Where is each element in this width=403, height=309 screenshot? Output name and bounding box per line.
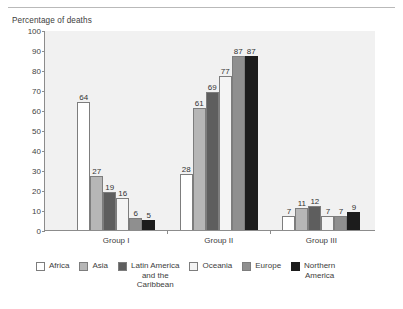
y-axis-tick-mark xyxy=(42,211,45,212)
legend-item: Oceania xyxy=(189,261,232,271)
legend-swatch xyxy=(36,262,45,271)
y-axis-tick-label: 30 xyxy=(32,167,41,176)
bar: 11 xyxy=(295,208,308,230)
bar: 9 xyxy=(347,212,360,230)
legend-label: Europe xyxy=(255,261,281,271)
y-axis-tick-mark xyxy=(42,231,45,232)
bar-group: 286169778787 xyxy=(180,31,258,230)
legend-swatch xyxy=(291,262,300,271)
bar: 5 xyxy=(142,220,155,230)
x-axis-group-label: Group I xyxy=(103,236,130,245)
legend-label: NorthernAmerica xyxy=(304,261,335,280)
bar-value-label: 11 xyxy=(298,199,306,208)
legend-swatch xyxy=(79,262,88,271)
bar-group: 71112779 xyxy=(282,31,360,230)
bar-value-label: 19 xyxy=(105,183,114,192)
legend-item: NorthernAmerica xyxy=(291,261,335,280)
y-axis-tick-mark xyxy=(42,31,45,32)
legend-item: Africa xyxy=(36,261,69,271)
bar-value-label: 16 xyxy=(118,189,127,198)
bar-value-label: 5 xyxy=(146,211,150,220)
legend-label: Oceania xyxy=(202,261,232,271)
bar-value-label: 28 xyxy=(182,165,191,174)
y-axis-tick-mark xyxy=(42,171,45,172)
y-axis-tick-label: 100 xyxy=(28,27,41,36)
bar-value-label: 77 xyxy=(221,67,230,76)
bar: 87 xyxy=(232,56,245,230)
legend-swatch xyxy=(242,262,251,271)
bar-value-label: 87 xyxy=(234,47,243,56)
y-axis-tick-mark xyxy=(42,51,45,52)
bar-value-label: 7 xyxy=(339,207,343,216)
bar-value-label: 64 xyxy=(79,93,88,102)
legend-item: Europe xyxy=(242,261,281,271)
bar-value-label: 7 xyxy=(287,207,291,216)
bar: 7 xyxy=(282,216,295,230)
y-axis-tick-label: 20 xyxy=(32,187,41,196)
y-axis-tick-mark xyxy=(42,191,45,192)
bar: 61 xyxy=(193,108,206,230)
bar-value-label: 61 xyxy=(195,99,204,108)
bar: 28 xyxy=(180,174,193,230)
bar-value-label: 27 xyxy=(92,167,101,176)
y-axis-tick-mark xyxy=(42,151,45,152)
legend-item: Asia xyxy=(79,261,108,271)
bar-value-label: 9 xyxy=(352,203,356,212)
y-axis-tick-mark xyxy=(42,71,45,72)
x-axis-tick-mark xyxy=(270,230,271,234)
x-axis-tick-mark xyxy=(167,230,168,234)
y-axis-tick-label: 50 xyxy=(32,127,41,136)
top-divider xyxy=(8,7,395,8)
bar: 19 xyxy=(103,192,116,230)
y-axis-tick-label: 10 xyxy=(32,207,41,216)
bar: 69 xyxy=(206,92,219,230)
y-axis-tick-mark xyxy=(42,131,45,132)
legend-swatch xyxy=(118,262,127,271)
legend-swatch xyxy=(189,262,198,271)
bar: 64 xyxy=(77,102,90,230)
y-axis-tick-label: 80 xyxy=(32,67,41,76)
y-axis-tick-label: 70 xyxy=(32,87,41,96)
bar-group: 6427191665 xyxy=(77,31,155,230)
y-axis-tick-label: 90 xyxy=(32,47,41,56)
y-axis-tick-label: 0 xyxy=(37,227,41,236)
bar-value-label: 87 xyxy=(247,47,256,56)
bar-value-label: 12 xyxy=(310,197,319,206)
bar-value-label: 6 xyxy=(133,209,137,218)
bar-value-label: 7 xyxy=(326,207,330,216)
bar-value-label: 69 xyxy=(208,83,217,92)
bar: 77 xyxy=(219,76,232,230)
legend-label: Africa xyxy=(49,261,69,271)
y-axis-title: Percentage of deaths xyxy=(12,16,92,25)
x-axis-group-label: Group II xyxy=(204,236,233,245)
bar: 87 xyxy=(245,56,258,230)
y-axis-tick-mark xyxy=(42,91,45,92)
bar: 27 xyxy=(90,176,103,230)
legend-label: Latin Americaand theCaribbean xyxy=(131,261,179,290)
y-axis-tick-label: 40 xyxy=(32,147,41,156)
bar: 7 xyxy=(334,216,347,230)
y-axis-tick-label: 60 xyxy=(32,107,41,116)
bar: 12 xyxy=(308,206,321,230)
bar: 6 xyxy=(129,218,142,230)
legend-item: Latin Americaand theCaribbean xyxy=(118,261,179,290)
y-axis-tick-mark xyxy=(42,111,45,112)
bar: 16 xyxy=(116,198,129,230)
legend-label: Asia xyxy=(92,261,108,271)
plot-area: 10090807060504030201006427191665Group I2… xyxy=(44,31,375,231)
chart-legend: AfricaAsiaLatin Americaand theCaribbeanO… xyxy=(36,261,386,290)
x-axis-group-label: Group III xyxy=(306,236,337,245)
bar: 7 xyxy=(321,216,334,230)
